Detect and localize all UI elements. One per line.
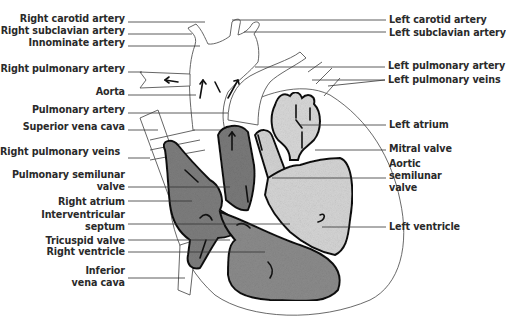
label-interventricular-septum: Interventricular (41, 209, 125, 220)
label-aortic-semilunar-valve: Aortic (389, 158, 421, 169)
label-pulmonary-semilunar-valve-cont: valve (97, 181, 125, 192)
label-pulmonary-semilunar-valve: Pulmonary semilunar (12, 169, 125, 180)
label-right-subclavian-artery: Right subclavian artery (1, 25, 125, 36)
label-interventricular-septum-cont: septum (85, 221, 125, 232)
label-mitral-valve: Mitral valve (389, 143, 452, 154)
label-tricuspid-valve: Tricuspid valve (46, 235, 125, 246)
label-right-carotid-artery: Right carotid artery (20, 13, 125, 24)
label-superior-vena-cava: Superior vena cava (23, 121, 125, 132)
label-left-carotid-artery: Left carotid artery (389, 14, 487, 25)
label-aorta: Aorta (96, 86, 125, 97)
label-right-pulmonary-veins: Right pulmonary veins (0, 146, 120, 157)
label-left-subclavian-artery: Left subclavian artery (389, 27, 506, 38)
label-right-atrium: Right atrium (58, 196, 125, 207)
label-right-ventricle: Right ventricle (47, 246, 125, 257)
label-left-pulmonary-artery: Left pulmonary artery (388, 60, 505, 71)
label-left-pulmonary-veins: Left pulmonary veins (388, 74, 501, 85)
label-inferior-vena-cava: Inferior (85, 265, 125, 276)
label-left-atrium: Left atrium (389, 119, 449, 130)
label-aortic-semilunar-valve-cont: semilunar (389, 170, 442, 181)
label-left-ventricle: Left ventricle (389, 221, 460, 232)
pulmonary-outflow (218, 126, 255, 211)
left-atrium-chamber (272, 92, 320, 160)
label-aortic-semilunar-valve-cont2: valve (389, 182, 417, 193)
label-right-pulmonary-artery: Right pulmonary artery (0, 63, 125, 74)
label-innominate-artery: Innominate artery (29, 37, 125, 48)
label-pulmonary-artery: Pulmonary artery (32, 104, 125, 115)
label-inferior-vena-cava-cont: vena cava (72, 277, 125, 288)
